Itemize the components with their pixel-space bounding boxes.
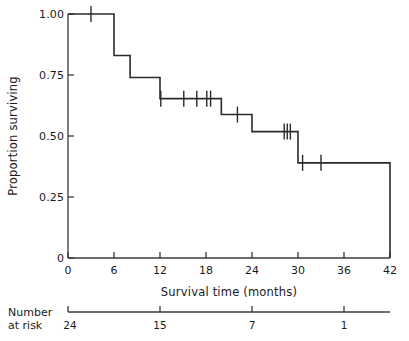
y-tick-label-2: 0.75 [20,69,64,82]
x-tick-label-42: 42 [383,264,397,277]
y-axis-title-text: Proportion surviving [6,76,20,196]
x-tick-label-18: 18 [199,264,213,277]
x-tick-marks [68,252,390,258]
axes-group [68,14,390,258]
risk-count-12: 15 [153,319,166,331]
y-tick-label-3: 0.50 [20,130,64,143]
x-tick-label-12: 12 [153,264,167,277]
risk-count-0: 24 [63,319,76,331]
y-tick-marks [68,14,74,258]
risk-table-caption: Number at risk [8,306,52,332]
survival-step-curve [68,14,390,258]
censoring-marks-group [91,6,321,171]
y-tick-label-4: 0.25 [20,191,64,204]
y-tick-label-1: 1.00 [20,8,64,21]
x-tick-label-24: 24 [245,264,259,277]
x-tick-label-36: 36 [337,264,351,277]
risk-count-24: 7 [249,319,256,331]
x-axis-title: Survival time (months) [161,285,297,299]
risk-table-caption-line1: Number [8,306,52,319]
y-tick-label-5: 0 [20,252,64,265]
risk-table-axis [68,306,390,312]
risk-table-caption-line2: at risk [8,319,52,332]
x-tick-label-6: 6 [110,264,117,277]
kaplan-meier-figure: Proportion surviving 1.00 0.75 0.50 0.25… [0,0,409,341]
x-tick-label-0: 0 [64,264,71,277]
risk-count-36: 1 [341,319,348,331]
x-tick-label-30: 30 [291,264,305,277]
